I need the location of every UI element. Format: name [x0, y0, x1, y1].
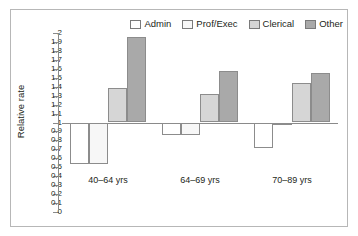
bar-prof-exec-0 [89, 123, 108, 164]
bar-other-1 [219, 71, 238, 123]
bar-prof-exec-1 [181, 123, 200, 136]
legend-swatch-icon [249, 20, 260, 29]
y-tick-label: 1.1 [16, 110, 62, 118]
chart-legend: AdminProf/ExecClericalOther [128, 17, 343, 31]
y-tick-label: 1.8 [16, 47, 62, 55]
legend-item-admin[interactable]: Admin [130, 19, 171, 29]
x-axis-group-label: 70–89 yrs [272, 175, 312, 185]
bar-prof-exec-2 [273, 123, 292, 125]
y-tick-label: 0 [16, 208, 62, 216]
y-tick-label: 1.2 [16, 101, 62, 109]
chart-figure: AdminProf/ExecClericalOther Relative rat… [0, 0, 358, 236]
legend-label: Other [319, 19, 343, 29]
y-tick-label: 0.6 [16, 154, 62, 162]
y-tick-label: 0.9 [16, 127, 62, 135]
y-tick-label: 1.5 [16, 74, 62, 82]
legend-item-prof-exec[interactable]: Prof/Exec [182, 19, 237, 29]
bar-other-0 [127, 37, 146, 122]
legend-label: Prof/Exec [196, 19, 237, 29]
y-axis-ticks: 21.91.81.71.61.51.41.31.21.110.90.80.70.… [0, 0, 62, 236]
y-tick-label: 0.8 [16, 136, 62, 144]
y-tick-label: 0.5 [16, 163, 62, 171]
y-tick-label: 1.7 [16, 56, 62, 64]
y-axis-line [58, 33, 59, 212]
y-tick-label: 0.1 [16, 199, 62, 207]
bar-admin-1 [162, 123, 181, 136]
legend-swatch-icon [305, 20, 316, 29]
y-tick-label: 0.3 [16, 181, 62, 189]
bar-admin-2 [254, 123, 273, 148]
legend-label: Clerical [263, 19, 295, 29]
y-tick-label: 0.2 [16, 190, 62, 198]
y-tick-label: 1 [16, 119, 62, 127]
legend-swatch-icon [182, 20, 193, 29]
bar-clerical-2 [292, 83, 311, 122]
y-tick-label: 1.3 [16, 92, 62, 100]
bar-clerical-1 [200, 94, 219, 123]
bar-admin-0 [70, 123, 89, 164]
legend-label: Admin [144, 19, 171, 29]
y-tick-label: 1.6 [16, 65, 62, 73]
y-tick-label: 0.7 [16, 145, 62, 153]
y-tick-label: 0.4 [16, 172, 62, 180]
y-tick-label: 1.9 [16, 38, 62, 46]
x-axis-group-label: 64–69 yrs [180, 175, 220, 185]
bar-clerical-0 [108, 88, 127, 123]
legend-item-clerical[interactable]: Clerical [249, 19, 295, 29]
bar-other-2 [311, 73, 330, 122]
legend-swatch-icon [130, 20, 141, 29]
y-tick-label: 2 [16, 29, 62, 37]
legend-item-other[interactable]: Other [305, 19, 343, 29]
y-tick-label: 1.4 [16, 83, 62, 91]
x-axis-group-label: 40–64 yrs [88, 175, 128, 185]
plot-area: 40–64 yrs64–69 yrs70–89 yrs [62, 33, 338, 212]
